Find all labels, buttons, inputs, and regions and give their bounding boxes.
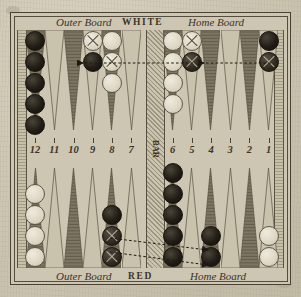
checker-white[interactable] (25, 205, 45, 225)
point-number-11: 11 (44, 144, 64, 155)
checker-cross-mark (103, 53, 121, 71)
checker-blackx[interactable] (102, 247, 122, 267)
point-number-3: 3 (220, 144, 240, 155)
checker-black[interactable] (201, 226, 221, 246)
point-tick (112, 138, 113, 143)
checker-white[interactable] (102, 31, 122, 51)
top-center-player-label: WHITE (122, 17, 163, 27)
point-triangle (83, 168, 102, 268)
point-tick (249, 138, 250, 143)
checker-cross-mark (103, 248, 121, 266)
backgammon-diagram-page: Outer Board WHITE Home Board Outer Board… (0, 0, 301, 297)
checker-white[interactable] (259, 226, 279, 246)
checker-black[interactable] (163, 163, 183, 183)
bottom-outer-board-label: Outer Board (56, 270, 112, 282)
bottom-home-board-label: Home Board (190, 270, 246, 282)
checker-cross-mark (260, 53, 278, 71)
point-tick (230, 138, 231, 143)
checker-white[interactable] (163, 52, 183, 72)
checker-black[interactable] (163, 205, 183, 225)
checker-white[interactable] (25, 247, 45, 267)
checker-black[interactable] (25, 115, 45, 135)
checker-black[interactable] (163, 247, 183, 267)
checker-black[interactable] (163, 226, 183, 246)
checker-black[interactable] (25, 52, 45, 72)
checker-black[interactable] (25, 94, 45, 114)
checker-blackx[interactable] (182, 52, 202, 72)
point-number-row: 121110987654321 (17, 138, 284, 160)
point-number-5: 5 (182, 144, 202, 155)
checker-black[interactable] (259, 31, 279, 51)
checker-black[interactable] (102, 205, 122, 225)
point-number-7: 7 (121, 144, 141, 155)
checker-whitex[interactable] (182, 31, 202, 51)
point-triangle (64, 30, 83, 130)
bottom-center-player-label: RED (128, 271, 153, 281)
point-tick (192, 138, 193, 143)
point-tick (211, 138, 212, 143)
checker-white[interactable] (163, 73, 183, 93)
checker-white[interactable] (25, 226, 45, 246)
checker-cross-mark (84, 32, 102, 50)
checker-black[interactable] (25, 31, 45, 51)
point-number-9: 9 (83, 144, 103, 155)
top-outer-board-label: Outer Board (56, 16, 112, 28)
checker-black[interactable] (163, 184, 183, 204)
point-tick (131, 138, 132, 143)
checker-whitex[interactable] (102, 52, 122, 72)
checker-white[interactable] (163, 94, 183, 114)
point-triangle (201, 30, 220, 130)
point-number-6: 6 (163, 144, 183, 155)
checker-white[interactable] (25, 184, 45, 204)
checker-cross-mark (103, 227, 121, 245)
point-number-12: 12 (25, 144, 45, 155)
point-triangle (240, 168, 259, 268)
checker-black[interactable] (201, 247, 221, 267)
checker-cross-mark (183, 53, 201, 71)
point-tick (74, 138, 75, 143)
point-triangle (221, 168, 240, 268)
point-tick (269, 138, 270, 143)
point-number-1: 1 (259, 144, 279, 155)
point-triangle (221, 30, 240, 130)
point-number-4: 4 (201, 144, 221, 155)
point-tick (173, 138, 174, 143)
point-triangle (45, 30, 64, 130)
point-triangle (122, 30, 141, 130)
checker-white[interactable] (259, 247, 279, 267)
checker-white[interactable] (163, 31, 183, 51)
point-tick (93, 138, 94, 143)
point-triangle (240, 30, 259, 130)
checker-blackx[interactable] (259, 52, 279, 72)
point-tick (54, 138, 55, 143)
top-home-board-label: Home Board (188, 16, 244, 28)
checker-whitex[interactable] (83, 31, 103, 51)
point-number-8: 8 (102, 144, 122, 155)
checker-black[interactable] (25, 73, 45, 93)
point-triangle (182, 168, 201, 268)
checker-blackx[interactable] (102, 226, 122, 246)
point-triangle (122, 168, 141, 268)
checker-white[interactable] (102, 73, 122, 93)
point-number-10: 10 (64, 144, 84, 155)
point-tick (35, 138, 36, 143)
point-triangle (45, 168, 64, 268)
point-number-2: 2 (239, 144, 259, 155)
checker-black[interactable] (83, 52, 103, 72)
point-triangle (64, 168, 83, 268)
checker-cross-mark (183, 32, 201, 50)
